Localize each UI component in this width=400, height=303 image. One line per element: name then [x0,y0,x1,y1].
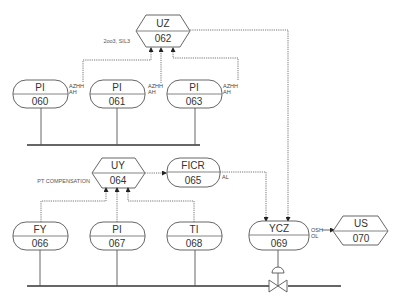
uz-function: UZ [156,18,169,29]
alarm-ah-061: AH [148,89,156,95]
alarm-ah-060: AH [69,89,77,95]
ficr-function: FICR [181,160,204,171]
uy-function: UY [111,160,125,171]
valve-body-left-icon [269,280,278,292]
pi-063-function: PI [189,82,198,93]
pi-060-function: PI [35,82,44,93]
ti-number: 068 [186,238,203,249]
ycz-function: YCZ [269,223,289,234]
uz-number: 062 [155,33,172,44]
fy-function: FY [34,224,47,235]
us-function: US [354,218,368,229]
pi-067-number: 067 [109,238,126,249]
instrument-ti-068[interactable]: TI 068 [167,222,222,250]
alarm-ah-063: AH [223,89,231,95]
instrument-us-070[interactable]: US 070 [333,216,388,245]
signal-062-to-069 [188,30,288,221]
us-number: 070 [353,233,370,244]
control-valve[interactable] [269,250,287,292]
instrument-ficr-065[interactable]: FICR 065 [167,158,220,187]
pi-061-function: PI [112,82,121,93]
signal-066-to-064 [41,188,106,222]
signal-068-to-064 [128,188,194,222]
uy-number: 064 [110,175,127,186]
alarm-al-065: AL [222,174,229,180]
instrument-pi-061[interactable]: PI 061 [90,80,145,108]
voting-note: 2oo3, SIL3 [103,38,130,44]
diaphragm-actuator-icon [272,267,284,273]
alarm-ol-069: OL [311,233,318,239]
instrument-fy-066[interactable]: FY 066 [13,222,68,250]
instrument-ycz-069[interactable]: YCZ 069 [249,221,309,250]
pi-060-number: 060 [32,96,49,107]
pi-063-number: 063 [186,96,203,107]
instrument-pi-060[interactable]: PI 060 [13,80,68,108]
pid-diagram: UZ 062 2oo3, SIL3 PI 060 AZHH AH PI 061 … [0,0,400,303]
signal-060-to-062 [83,48,151,82]
ycz-number: 069 [271,238,288,249]
instrument-pi-063[interactable]: PI 063 [167,80,222,108]
instrument-uy-064[interactable]: UY 064 [92,158,145,188]
pt-compensation-note: PT COMPENSATION [37,178,90,184]
ti-function: TI [190,224,199,235]
ficr-number: 065 [185,175,202,186]
signal-063-to-062 [173,48,238,80]
valve-body-right-icon [278,280,287,292]
pi-067-function: PI [112,224,121,235]
instrument-pi-067[interactable]: PI 067 [90,222,145,250]
pi-061-number: 061 [109,96,126,107]
fy-number: 066 [32,238,49,249]
instrument-uz-062[interactable]: UZ 062 [136,15,190,47]
